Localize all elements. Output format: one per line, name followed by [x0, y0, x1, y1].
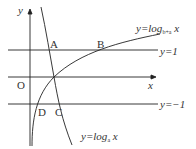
origin-label: O	[17, 80, 25, 91]
point-d: D	[38, 107, 46, 118]
point-a: A	[50, 39, 58, 50]
y-axis-label: y	[18, 5, 23, 16]
y-axis-arrow	[28, 9, 32, 14]
label-y-equals-1: y=1	[160, 46, 178, 57]
x-axis-label: x	[148, 80, 153, 91]
curve-log-base-less-than-1	[41, 7, 72, 145]
label-curve-decreasing: y=loga x	[81, 131, 118, 143]
point-b: B	[97, 39, 104, 50]
point-c: C	[55, 107, 62, 118]
label-y-equals-minus-1: y=−1	[160, 99, 185, 110]
label-curve-increasing: y=logb+a x	[136, 23, 179, 35]
